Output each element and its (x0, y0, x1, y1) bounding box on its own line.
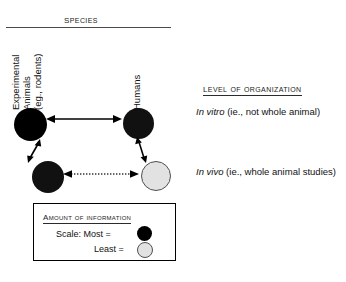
legend-row-most-label: Scale: Most = (56, 229, 111, 239)
species-label-line-1: Experimental (10, 34, 21, 110)
legend-row-least-label: Least = (94, 244, 124, 254)
legend-swatch-least (137, 242, 153, 258)
node-humans-in-vitro (123, 108, 154, 139)
connector-top-horizontal-arrow (46, 112, 122, 126)
connector-right-vertical-arrow (131, 137, 151, 163)
species-axis-rule (6, 27, 171, 28)
diagram-canvas: SPECIES Experimental Animals (eg., roden… (0, 0, 346, 282)
node-humans-in-vivo (141, 161, 171, 191)
legend-swatch-most (137, 226, 152, 241)
species-label-experimental-animals: Experimental Animals (eg., rodents) (10, 34, 43, 110)
level-row-in-vivo: In vivo (ie., whole animal studies) (196, 166, 336, 177)
connector-left-vertical-arrow (24, 139, 44, 163)
level-axis-heading: LEVEL OF ORGANIZATION (203, 82, 302, 96)
level-row-in-vitro-detail: (ie., not whole animal) (225, 106, 321, 117)
species-label-line-2: Animals (21, 34, 32, 110)
node-experimental-in-vitro (14, 108, 47, 141)
level-row-in-vivo-detail: (ie., whole animal studies) (223, 166, 335, 177)
species-axis-heading: SPECIES (64, 13, 98, 25)
species-label-humans: Humans (131, 46, 142, 110)
level-row-in-vitro: In vitro (ie., not whole animal) (196, 106, 320, 117)
legend-title: AMOUNT OF INFORMATION (43, 210, 131, 224)
node-experimental-in-vivo (32, 161, 64, 193)
species-label-humans-line-1: Humans (131, 46, 142, 110)
species-label-line-3: (eg., rodents) (32, 34, 43, 110)
level-row-in-vitro-emphasis: In vitro (196, 106, 225, 117)
legend-box: AMOUNT OF INFORMATION Scale: Most = Leas… (33, 203, 176, 261)
level-row-in-vivo-emphasis: In vivo (196, 166, 223, 177)
connector-bottom-horizontal-arrow (63, 167, 139, 181)
